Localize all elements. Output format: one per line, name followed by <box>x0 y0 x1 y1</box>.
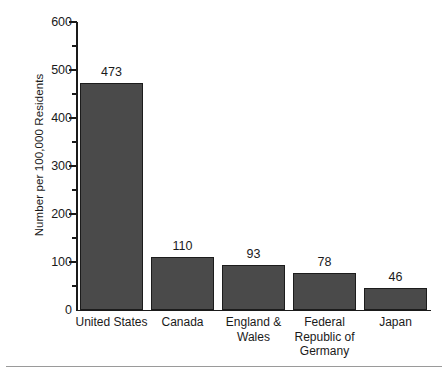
bar <box>80 83 142 310</box>
bar <box>151 257 213 310</box>
bar <box>222 265 284 310</box>
footer-divider <box>6 366 442 367</box>
x-category-label: Japan <box>352 315 439 330</box>
bar <box>364 288 426 310</box>
bar-value-label: 93 <box>218 248 289 261</box>
bar-chart-figure: Number per 100,000 Residents 01002003004… <box>0 0 448 375</box>
bar-value-label: 110 <box>147 240 218 253</box>
bar <box>293 273 355 310</box>
bar-value-label: 46 <box>360 271 431 284</box>
bar-value-label: 78 <box>289 256 360 269</box>
bars-and-labels: 473United States110Canada93England &Wale… <box>0 0 448 375</box>
bar-value-label: 473 <box>76 66 147 79</box>
